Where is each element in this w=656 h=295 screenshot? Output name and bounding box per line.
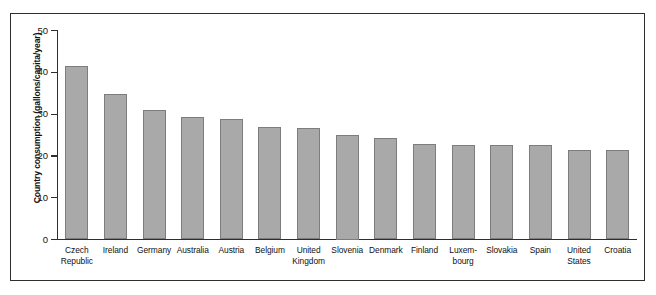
y-tick-label: 50 <box>12 26 48 36</box>
bar <box>297 128 320 239</box>
bar <box>568 150 591 240</box>
bar <box>258 127 281 239</box>
y-tick-label: 10 <box>12 193 48 203</box>
y-tick-label-wrap: 50 <box>6 26 48 36</box>
chart-figure: Country consumption (gallons/capita/year… <box>0 0 656 295</box>
y-tick-label-wrap: 0 <box>6 235 48 245</box>
bar <box>490 145 513 239</box>
y-tick-mark <box>51 72 57 73</box>
bar <box>606 150 629 239</box>
bar <box>143 110 166 240</box>
y-tick-label: 20 <box>12 151 48 161</box>
bar <box>65 66 88 240</box>
y-tick-mark <box>51 239 57 240</box>
y-tick-label: 30 <box>12 109 48 119</box>
bar <box>374 138 397 239</box>
y-tick-mark <box>51 197 57 198</box>
y-tick-label: 40 <box>12 67 48 77</box>
bar <box>452 145 475 240</box>
y-tick-mark <box>51 114 57 115</box>
bar <box>181 117 204 239</box>
bar <box>104 94 127 239</box>
y-tick-label-wrap: 10 <box>6 193 48 203</box>
y-axis-line <box>57 30 58 240</box>
y-tick-mark <box>51 30 57 31</box>
x-tick-label: Croatia <box>595 245 640 256</box>
y-tick-label-wrap: 40 <box>6 67 48 77</box>
bar <box>336 135 359 240</box>
bar <box>529 145 552 239</box>
bar <box>413 144 436 240</box>
y-tick-mark <box>51 155 57 156</box>
y-tick-label-wrap: 20 <box>6 151 48 161</box>
y-tick-label-wrap: 30 <box>6 109 48 119</box>
bar <box>220 119 243 239</box>
y-tick-label: 0 <box>12 235 48 245</box>
